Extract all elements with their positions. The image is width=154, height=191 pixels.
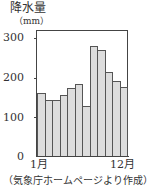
plot-area	[36, 30, 128, 157]
y-tick-100: 100	[2, 112, 24, 123]
y-axis-unit: （mm）	[14, 16, 49, 27]
x-label-last: 12月	[110, 159, 135, 171]
x-label-first: 1月	[30, 159, 48, 171]
bar-12月	[120, 87, 129, 157]
y-tick-300: 300	[2, 32, 24, 43]
source-caption: （気象庁ホームページより作成）	[3, 175, 153, 187]
x-axis-line	[36, 156, 129, 157]
y-tick-200: 200	[2, 72, 24, 83]
y-tick-0: 0	[2, 151, 24, 162]
y-axis-title: 降水量	[10, 1, 46, 15]
